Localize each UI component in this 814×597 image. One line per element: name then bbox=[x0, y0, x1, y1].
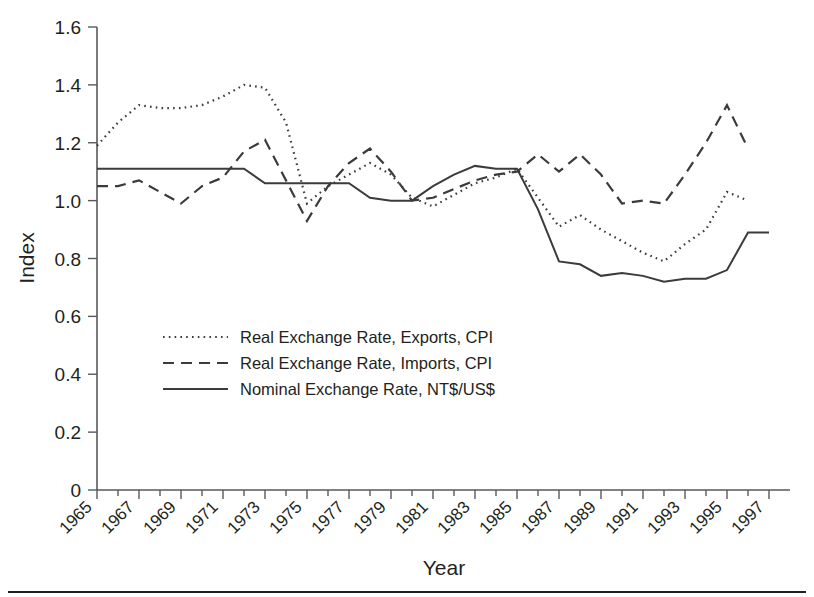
y-tick-label: 0.6 bbox=[55, 306, 81, 327]
y-tick-label: 1.6 bbox=[55, 17, 81, 38]
chart-figure: 00.20.40.60.81.01.21.41.6 19651967196919… bbox=[0, 0, 814, 597]
x-axis-title: Year bbox=[423, 556, 465, 579]
y-tick-label: 0 bbox=[70, 480, 81, 501]
y-axis-tick-labels: 00.20.40.60.81.01.21.41.6 bbox=[55, 17, 82, 501]
y-axis-title: Index bbox=[15, 232, 38, 284]
y-tick-label: 0.8 bbox=[55, 249, 81, 270]
legend-label: Real Exchange Rate, Exports, CPI bbox=[240, 328, 493, 346]
legend-label: Nominal Exchange Rate, NT$/US$ bbox=[240, 380, 495, 398]
legend-label: Real Exchange Rate, Imports, CPI bbox=[240, 354, 492, 372]
y-tick-label: 1.0 bbox=[55, 191, 81, 212]
y-tick-label: 0.4 bbox=[55, 364, 82, 385]
y-tick-label: 1.2 bbox=[55, 133, 81, 154]
exchange-rate-line-chart: 00.20.40.60.81.01.21.41.6 19651967196919… bbox=[0, 0, 814, 597]
y-tick-label: 0.2 bbox=[55, 422, 81, 443]
y-tick-label: 1.4 bbox=[55, 75, 82, 96]
